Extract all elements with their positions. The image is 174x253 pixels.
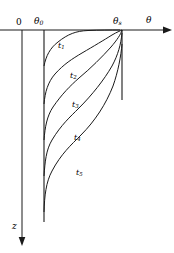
theta-axis-label: θ: [146, 16, 151, 25]
theta-s-label: θs: [113, 17, 122, 26]
curve-t5-subscript: 5: [79, 171, 82, 177]
curve-t1-path: [44, 30, 120, 66]
curve-t3-label: t3: [72, 101, 79, 110]
temperature-depth-diagram: 0 θ0 θs θ z t1 t2 t3 t4 t5: [0, 0, 174, 253]
theta-zero-label: θ0: [34, 17, 43, 26]
curve-t1-subscript: 1: [61, 44, 64, 50]
diagram-canvas: [0, 0, 174, 253]
curve-t3-subscript: 3: [75, 103, 78, 109]
curve-t5-label: t5: [76, 169, 83, 178]
curve-t1-label: t1: [58, 42, 65, 51]
theta-s-subscript: s: [118, 19, 121, 26]
curve-t2-label: t2: [70, 72, 77, 81]
theta-axis-line: [0, 27, 172, 34]
curve-t4-path: [44, 33, 122, 176]
curve-t2-subscript: 2: [73, 74, 76, 80]
curve-t3-path: [44, 30, 122, 140]
origin-label: 0: [16, 18, 22, 27]
z-axis-label: z: [12, 222, 17, 231]
curve-t4-subscript: 4: [77, 136, 80, 142]
theta-zero-subscript: 0: [39, 19, 43, 26]
z-axis-line: [19, 30, 26, 246]
curve-t4-label: t4: [74, 134, 81, 143]
